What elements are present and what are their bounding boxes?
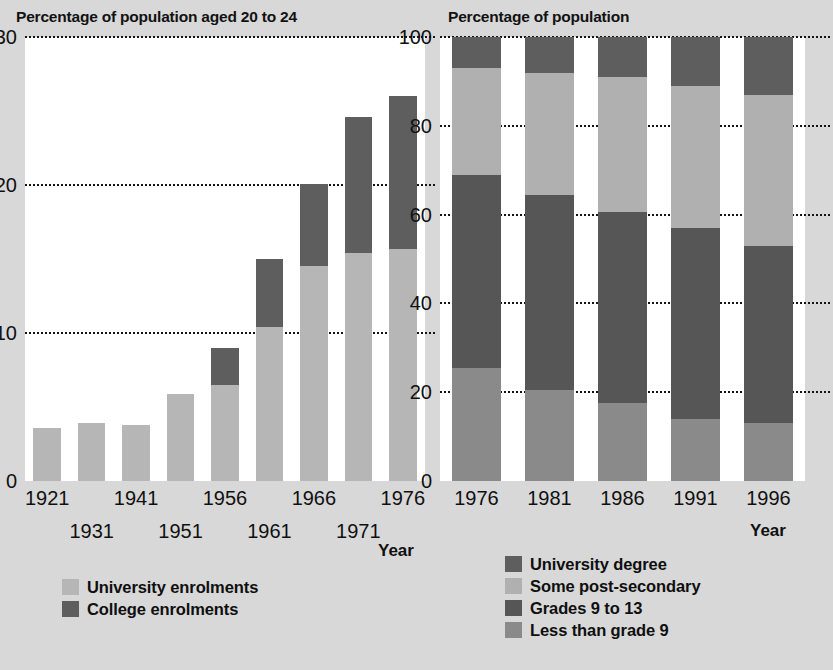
y-tick-label: 20	[0, 174, 17, 197]
bar-segment-less-than-grade-9	[452, 368, 502, 481]
bar-1921	[33, 428, 61, 481]
left-x-axis-label: Year	[378, 541, 414, 561]
bar-segment-university-enrolments	[300, 266, 328, 481]
bar-1971	[345, 117, 373, 481]
bar-segment-college-enrolments	[300, 184, 328, 267]
legend-label: Less than grade 9	[530, 621, 669, 640]
bar-segment-less-than-grade-9	[671, 419, 721, 481]
left-legend: University enrolmentsCollege enrolments	[62, 576, 258, 620]
x-tick-label: 1991	[673, 487, 718, 510]
right-x-axis-label: Year	[750, 521, 786, 541]
bar-1996	[744, 37, 794, 481]
y-tick-label: 60	[410, 203, 432, 226]
bar-1986	[598, 37, 648, 481]
bar-segment-college-enrolments	[211, 348, 239, 385]
x-tick-label: 1986	[600, 487, 645, 510]
bar-segment-some-post-secondary	[671, 86, 721, 228]
bar-segment-university-enrolments	[389, 249, 417, 481]
bar-segment-university-enrolments	[167, 394, 195, 481]
y-tick-label: 100	[399, 26, 432, 49]
bar-segment-grades-9-to-13	[671, 228, 721, 419]
bar-1981	[525, 37, 575, 481]
bar-segment-some-post-secondary	[452, 68, 502, 175]
x-tick-label: 1931	[69, 520, 114, 543]
y-tick-label: 10	[0, 322, 17, 345]
x-tick-label: 1956	[203, 487, 248, 510]
bar-1991	[671, 37, 721, 481]
bar-segment-university-enrolments	[33, 428, 61, 481]
bar-segment-less-than-grade-9	[525, 390, 575, 481]
left-legend-item: University enrolments	[62, 576, 258, 598]
y-tick-label: 0	[421, 470, 432, 493]
right-chart-title: Percentage of population	[448, 8, 629, 26]
bar-segment-less-than-grade-9	[598, 403, 648, 481]
x-tick-label: 1921	[25, 487, 70, 510]
bar-segment-less-than-grade-9	[744, 423, 794, 481]
bar-1956	[211, 348, 239, 481]
bar-segment-university-degree	[671, 37, 721, 86]
x-tick-label: 1961	[247, 520, 292, 543]
legend-label: Grades 9 to 13	[530, 599, 642, 618]
x-tick-label: 1941	[114, 487, 159, 510]
legend-swatch-icon	[62, 601, 79, 617]
gridline	[25, 184, 435, 186]
legend-swatch-icon	[505, 556, 522, 572]
bar-segment-some-post-secondary	[598, 77, 648, 212]
bar-1976	[389, 96, 417, 481]
gridline	[25, 36, 435, 38]
left-chart-title: Percentage of population aged 20 to 24	[16, 8, 297, 26]
bar-segment-university-degree	[744, 37, 794, 95]
x-tick-label: 1981	[527, 487, 572, 510]
bar-segment-grades-9-to-13	[452, 175, 502, 368]
gridline	[25, 332, 435, 334]
legend-swatch-icon	[62, 579, 79, 595]
bar-segment-grades-9-to-13	[598, 212, 648, 403]
bar-segment-some-post-secondary	[744, 95, 794, 246]
bar-1951	[167, 394, 195, 481]
bar-segment-university-degree	[598, 37, 648, 77]
figure: Percentage of population aged 20 to 24 0…	[0, 0, 833, 670]
x-tick-label: 1996	[746, 487, 791, 510]
bar-segment-grades-9-to-13	[525, 195, 575, 390]
bar-1976	[452, 37, 502, 481]
legend-swatch-icon	[505, 578, 522, 594]
y-tick-label: 80	[410, 114, 432, 137]
bar-segment-college-enrolments	[256, 259, 284, 327]
right-legend-item: Grades 9 to 13	[505, 597, 700, 619]
bar-segment-university-enrolments	[122, 425, 150, 481]
legend-swatch-icon	[505, 600, 522, 616]
x-tick-label: 1966	[292, 487, 337, 510]
legend-label: College enrolments	[87, 600, 238, 619]
x-tick-label: 1971	[336, 520, 381, 543]
bar-segment-grades-9-to-13	[744, 246, 794, 424]
bar-segment-university-enrolments	[211, 385, 239, 481]
legend-swatch-icon	[505, 622, 522, 638]
y-tick-label: 30	[0, 26, 17, 49]
right-legend-item: University degree	[505, 553, 700, 575]
right-legend: University degreeSome post-secondaryGrad…	[505, 553, 700, 641]
bar-segment-university-degree	[525, 37, 575, 73]
bar-segment-university-enrolments	[256, 327, 284, 481]
bar-segment-some-post-secondary	[525, 73, 575, 195]
y-tick-label: 0	[6, 470, 17, 493]
bar-1941	[122, 425, 150, 481]
legend-label: University degree	[530, 555, 667, 574]
x-tick-label: 1976	[381, 487, 426, 510]
y-tick-label: 40	[410, 292, 432, 315]
left-legend-item: College enrolments	[62, 598, 258, 620]
legend-label: Some post-secondary	[530, 577, 700, 596]
bar-1966	[300, 184, 328, 481]
x-tick-label: 1951	[158, 520, 203, 543]
bar-segment-university-degree	[452, 37, 502, 68]
bar-1961	[256, 259, 284, 481]
bar-segment-university-enrolments	[345, 253, 373, 481]
bar-segment-university-enrolments	[78, 423, 106, 481]
right-legend-item: Some post-secondary	[505, 575, 700, 597]
right-legend-item: Less than grade 9	[505, 619, 700, 641]
bar-segment-college-enrolments	[345, 117, 373, 253]
bar-1931	[78, 423, 106, 481]
legend-label: University enrolments	[87, 578, 258, 597]
x-tick-label: 1976	[454, 487, 499, 510]
y-tick-label: 20	[410, 381, 432, 404]
